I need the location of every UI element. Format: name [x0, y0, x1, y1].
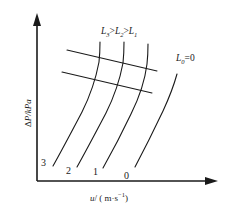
- curve-label-2: 2: [66, 166, 71, 176]
- cross-line-upper: [67, 50, 157, 71]
- x-axis-unit-exponent: −1: [118, 191, 125, 198]
- l-zero-equals: =0: [185, 53, 195, 63]
- curve-label-0: 0: [124, 171, 129, 181]
- data-curve-2: [77, 42, 124, 167]
- l-zero-annotation: L0=0: [176, 54, 195, 65]
- pressure-drop-velocity-figure: L3>L2>L1 L0=0 3 2 1 0 ΔP/kPa u/ ( m·s−1): [0, 0, 250, 217]
- inequality-sub1: 1: [134, 31, 137, 38]
- x-axis-arrow-icon: [205, 177, 218, 185]
- inequality-annotation: L3>L2>L1: [101, 27, 137, 38]
- curve-label-3: 3: [41, 158, 46, 168]
- x-axis-unit-metre: m: [105, 193, 112, 203]
- y-axis-label: ΔP/kPa: [24, 99, 33, 127]
- cross-line-lower: [62, 72, 152, 93]
- x-axis-label: u/ ( m·s−1): [90, 192, 128, 203]
- data-curve-3: [53, 42, 100, 166]
- y-axis-label-text: P/kPa: [23, 99, 33, 121]
- x-axis-slash: / (: [95, 193, 103, 203]
- x-axis-paren-close: ): [125, 193, 128, 203]
- y-axis-arrow-icon: [33, 13, 41, 26]
- curve-label-1: 1: [93, 167, 98, 177]
- y-axis-delta-symbol: Δ: [23, 121, 33, 127]
